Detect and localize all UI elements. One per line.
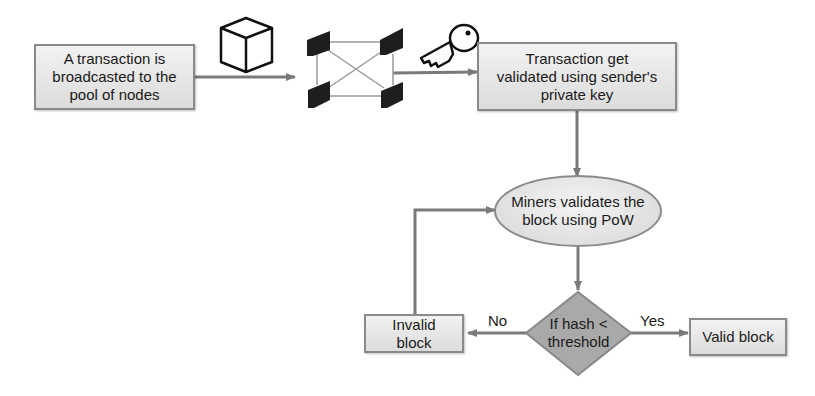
arrow-invalid-to-miners — [415, 210, 495, 316]
cube-icon — [221, 18, 272, 72]
arrow-network-to-validate — [393, 72, 477, 73]
edge-label-no: No — [488, 312, 507, 329]
broadcast-transaction-node: A transaction is broadcasted to the pool… — [34, 44, 195, 110]
flowchart-canvas: A transaction is broadcasted to the pool… — [0, 0, 815, 396]
decision-hash-threshold-label: If hash < threshold — [526, 312, 631, 354]
edge-label-yes: Yes — [640, 312, 664, 329]
miners-validate-pow-node: Miners validates the block using PoW — [494, 175, 662, 247]
node-network-icon — [307, 28, 403, 108]
invalid-block-node: Invalid block — [364, 314, 464, 353]
key-icon — [421, 25, 478, 67]
validate-private-key-node: Transaction get validated using sender's… — [477, 42, 677, 111]
valid-block-node: Valid block — [689, 318, 787, 356]
